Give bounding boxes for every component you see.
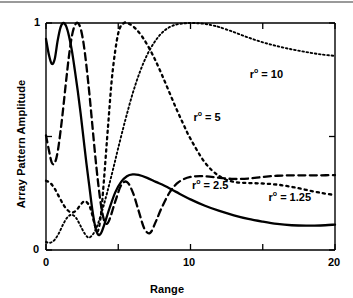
y-axis-title: Array Pattern Amplitude [15, 79, 27, 209]
y-tick-label-1: 1 [34, 16, 40, 28]
curve-label-r125-value: = 1.25 [280, 190, 311, 202]
curve-label-r25-superscript: o [196, 178, 200, 185]
curve-label-r25: ro = 2.5 [192, 178, 228, 191]
curve-label-r125: ro = 1.25 [269, 190, 312, 203]
curve-label-r10-superscript: o [254, 67, 258, 74]
curve-label-r5-value: = 5 [205, 111, 221, 123]
y-tick-label-0: 0 [33, 243, 39, 255]
curve-dotted-fine-3 [46, 23, 335, 243]
curve-solid-0 [46, 23, 335, 235]
curve-label-r10: ro = 10 [250, 67, 283, 80]
chart-plot-area [0, 0, 353, 298]
x-tick-label-20: 20 [328, 256, 340, 268]
curve-label-r125-superscript: o [273, 190, 277, 197]
x-axis-title: Range [150, 283, 184, 295]
curve-label-r10-value: = 10 [261, 68, 283, 80]
curve-label-r5-superscript: o [198, 110, 202, 117]
curve-label-r5: ro = 5 [193, 110, 220, 123]
figure-container: Array Pattern Amplitude Range 0 10 20 0 … [0, 0, 353, 298]
curve-label-r25-value: = 2.5 [204, 179, 229, 191]
x-tick-label-0: 0 [43, 256, 49, 268]
x-tick-label-10: 10 [183, 256, 195, 268]
data-curves [46, 22, 335, 242]
